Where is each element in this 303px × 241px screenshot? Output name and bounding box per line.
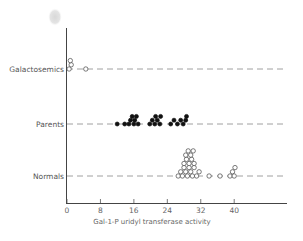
data-point-parents bbox=[123, 122, 127, 126]
data-point-galactosemics bbox=[84, 67, 88, 71]
data-point-normals bbox=[184, 153, 188, 157]
data-point-parents bbox=[129, 118, 133, 122]
data-point-normals bbox=[207, 174, 211, 178]
x-tick-label: 0 bbox=[65, 206, 70, 215]
data-points bbox=[67, 58, 237, 178]
data-point-normals bbox=[192, 165, 196, 169]
data-point-parents bbox=[185, 114, 189, 118]
data-point-parents bbox=[148, 122, 152, 126]
data-point-parents bbox=[169, 122, 173, 126]
data-point-parents bbox=[175, 122, 179, 126]
data-point-normals bbox=[184, 170, 188, 174]
data-point-parents bbox=[155, 118, 159, 122]
data-point-parents bbox=[158, 122, 162, 126]
data-point-normals bbox=[189, 157, 193, 161]
data-point-normals bbox=[192, 161, 196, 165]
data-point-normals bbox=[186, 149, 190, 153]
data-point-galactosemics bbox=[67, 67, 71, 71]
x-tick-label: 24 bbox=[163, 206, 173, 215]
data-point-normals bbox=[233, 165, 237, 169]
data-point-parents bbox=[172, 118, 176, 122]
data-point-normals bbox=[184, 157, 188, 161]
data-point-normals bbox=[230, 170, 234, 174]
data-point-parents bbox=[184, 118, 188, 122]
dot-plot-chart: Galactosemics Parents Normals 0816243240… bbox=[0, 0, 303, 241]
x-tick-label: 8 bbox=[98, 206, 103, 215]
data-point-normals bbox=[232, 174, 236, 178]
decorative-blob bbox=[48, 8, 62, 26]
data-point-normals bbox=[191, 149, 195, 153]
category-label-galactosemics: Galactosemics bbox=[9, 65, 64, 74]
data-point-normals bbox=[189, 153, 193, 157]
category-label-parents: Parents bbox=[36, 120, 64, 129]
data-point-parents bbox=[153, 122, 157, 126]
data-point-parents bbox=[136, 122, 140, 126]
data-point-normals bbox=[182, 161, 186, 165]
data-point-parents bbox=[179, 118, 183, 122]
data-point-normals bbox=[189, 170, 193, 174]
data-point-normals bbox=[185, 174, 189, 178]
x-tick-label: 40 bbox=[229, 206, 239, 215]
data-point-normals bbox=[228, 174, 232, 178]
category-label-normals: Normals bbox=[33, 172, 64, 181]
data-point-normals bbox=[187, 161, 191, 165]
data-point-parents bbox=[115, 122, 119, 126]
data-point-normals bbox=[218, 174, 222, 178]
data-point-parents bbox=[181, 122, 185, 126]
data-point-normals bbox=[190, 174, 194, 178]
data-point-parents bbox=[134, 114, 138, 118]
data-point-normals bbox=[197, 170, 201, 174]
x-axis-ticks: 0816243240 bbox=[65, 199, 240, 215]
data-point-normals bbox=[182, 165, 186, 169]
data-point-parents bbox=[130, 114, 134, 118]
data-point-normals bbox=[187, 165, 191, 169]
data-point-parents bbox=[133, 118, 137, 122]
data-point-parents bbox=[150, 118, 154, 122]
data-point-parents bbox=[154, 114, 158, 118]
data-point-normals bbox=[194, 174, 198, 178]
x-axis-label: Gal-1-P uridyl transferase activity bbox=[93, 218, 211, 226]
data-point-normals bbox=[180, 174, 184, 178]
data-point-parents bbox=[159, 114, 163, 118]
data-point-parents bbox=[132, 122, 136, 126]
x-tick-label: 32 bbox=[196, 206, 206, 215]
data-point-normals bbox=[176, 174, 180, 178]
data-point-normals bbox=[179, 170, 183, 174]
data-point-galactosemics bbox=[68, 58, 72, 62]
data-point-parents bbox=[127, 122, 131, 126]
data-point-galactosemics bbox=[69, 63, 73, 67]
x-tick-label: 16 bbox=[129, 206, 139, 215]
